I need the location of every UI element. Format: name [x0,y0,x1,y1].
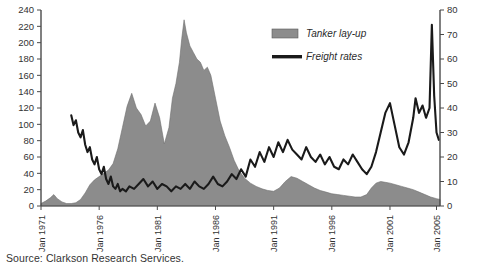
right-axis-tick-label: 10 [447,176,458,187]
legend-label-freight-rates: Freight rates [306,51,362,62]
left-axis-tick-label: 200 [18,37,34,48]
x-axis-tick-label: Jan 1976 [95,215,105,252]
right-axis-tick-label: 70 [447,29,458,40]
right-axis-tick-label: 50 [447,78,458,89]
tanker-layup-freight-rates-chart: 020406080100120140160180200220240 010203… [0,0,480,273]
left-axis-tick-label: 40 [23,168,34,179]
left-axis-tick-label: 80 [23,135,34,146]
x-axis-tick-label: Jan 1986 [211,215,221,252]
source-note: Source: Clarkson Research Services. [6,252,184,264]
left-axis-tick-label: 180 [18,53,34,64]
left-axis-tick-label: 160 [18,70,34,81]
x-axis-tick-label: Jan 1971 [37,215,47,252]
legend-swatch-tanker-lay-up [272,29,298,38]
left-axis-tick-label: 240 [18,4,34,15]
right-axis-tick-label: 0 [447,200,452,211]
x-axis-tick-label: Jan 2005 [432,215,442,252]
right-axis-tick-label: 60 [447,53,458,64]
left-axis: 020406080100120140160180200220240 [18,4,41,211]
right-axis-tick-label: 30 [447,127,458,138]
legend-label-tanker-lay-up: Tanker lay-up [306,28,367,39]
x-axis-tick-label: Jan 1996 [327,215,337,252]
left-axis-tick-label: 100 [18,119,34,130]
x-axis-tick-label: Jan 1981 [153,215,163,252]
left-axis-tick-label: 20 [23,184,34,195]
left-axis-tick-label: 60 [23,151,34,162]
chart-figure: 020406080100120140160180200220240 010203… [0,0,480,273]
x-axis-tick-label: Jan 2001 [385,215,395,252]
legend-swatch-freight-rates [272,55,302,58]
left-axis-tick-label: 0 [29,200,34,211]
right-axis-tick-label: 20 [447,151,458,162]
x-axis: Jan 1971Jan 1976Jan 1981Jan 1986Jan 1991… [37,206,443,252]
right-axis-tick-label: 40 [447,102,458,113]
left-axis-tick-label: 220 [18,21,34,32]
right-axis-tick-label: 80 [447,4,458,15]
left-axis-tick-label: 120 [18,102,34,113]
left-axis-tick-label: 140 [18,86,34,97]
x-axis-tick-label: Jan 1991 [269,215,279,252]
right-axis: 01020304050607080 [440,4,458,211]
